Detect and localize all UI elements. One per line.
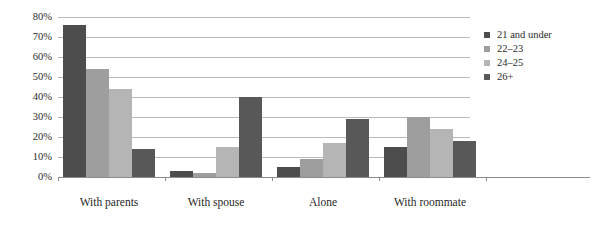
y-axis-tick-label: 80% xyxy=(4,12,52,23)
legend-label: 22–23 xyxy=(497,44,523,55)
bar[interactable] xyxy=(239,97,262,177)
bar-group xyxy=(63,17,155,177)
bar[interactable] xyxy=(346,119,369,177)
legend-label: 26+ xyxy=(497,72,513,83)
bar[interactable] xyxy=(453,141,476,177)
y-axis-tick-label: 50% xyxy=(4,72,52,83)
bar[interactable] xyxy=(109,89,132,177)
bar[interactable] xyxy=(277,167,300,177)
x-axis-tick xyxy=(486,177,487,181)
legend-item[interactable]: 21 and under xyxy=(484,29,552,42)
bar[interactable] xyxy=(63,25,86,177)
bar[interactable] xyxy=(384,147,407,177)
y-axis-tick-label: 40% xyxy=(4,92,52,103)
bar-group xyxy=(170,17,262,177)
bar-chart: 0%10%20%30%40%50%60%70%80% With parentsW… xyxy=(0,0,598,229)
legend-item[interactable]: 26+ xyxy=(484,71,552,84)
x-axis-tick xyxy=(272,177,273,181)
bar[interactable] xyxy=(132,149,155,177)
y-axis-tick-label: 10% xyxy=(4,152,52,163)
x-axis-category-label: With spouse xyxy=(188,196,245,208)
x-axis-category-label: With roommate xyxy=(394,196,466,208)
y-axis-tick-label: 20% xyxy=(4,132,52,143)
x-axis-tick xyxy=(165,177,166,181)
bar-group xyxy=(277,17,369,177)
legend-label: 21 and under xyxy=(497,30,552,41)
bar[interactable] xyxy=(86,69,109,177)
legend-swatch-icon xyxy=(484,60,490,66)
bar[interactable] xyxy=(216,147,239,177)
legend-swatch-icon xyxy=(484,46,490,52)
legend: 21 and under22–2324–2526+ xyxy=(484,29,552,85)
bar[interactable] xyxy=(323,143,346,177)
bar[interactable] xyxy=(300,159,323,177)
legend-label: 24–25 xyxy=(497,58,523,69)
x-axis-category-label: With parents xyxy=(80,196,139,208)
bar-group xyxy=(384,17,476,177)
legend-item[interactable]: 22–23 xyxy=(484,43,552,56)
x-axis-tick xyxy=(379,177,380,181)
y-axis-labels: 0%10%20%30%40%50%60%70%80% xyxy=(0,0,52,229)
y-axis-tick-label: 70% xyxy=(4,32,52,43)
y-axis-tick-label: 0% xyxy=(4,172,52,183)
legend-swatch-icon xyxy=(484,32,490,38)
x-axis-tick xyxy=(58,177,59,181)
bar[interactable] xyxy=(430,129,453,177)
x-axis-category-label: Alone xyxy=(309,196,337,208)
plot-area xyxy=(58,17,470,177)
y-axis-tick-label: 30% xyxy=(4,112,52,123)
x-axis-baseline xyxy=(58,177,590,178)
legend-item[interactable]: 24–25 xyxy=(484,57,552,70)
bar[interactable] xyxy=(407,117,430,177)
legend-swatch-icon xyxy=(484,74,490,80)
y-axis-tick-label: 60% xyxy=(4,52,52,63)
